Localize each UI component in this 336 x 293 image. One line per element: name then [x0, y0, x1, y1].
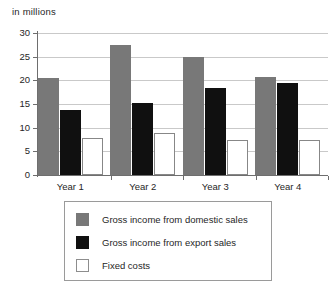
bar — [82, 138, 103, 175]
bar-chart: in millions 051015202530 Year 1Year 2Yea… — [0, 0, 336, 293]
bar — [132, 103, 153, 175]
bar — [38, 78, 59, 175]
legend-item: Gross income from export sales — [76, 235, 236, 249]
bar — [299, 140, 320, 175]
x-tick-mark — [328, 176, 329, 180]
y-tick-label: 15 — [10, 98, 30, 109]
x-tick-label: Year 3 — [202, 181, 229, 192]
x-tick-label: Year 4 — [274, 181, 301, 192]
y-tick-label: 30 — [10, 27, 30, 38]
legend-item: Gross income from domestic sales — [76, 212, 248, 226]
legend-item: Fixed costs — [76, 258, 150, 272]
bar — [183, 57, 204, 175]
bar — [277, 83, 298, 175]
legend-swatch-domestic — [76, 213, 89, 226]
x-tick-label: Year 1 — [57, 181, 84, 192]
bar — [110, 45, 131, 175]
y-tick-label: 5 — [10, 145, 30, 156]
legend-item-label: Gross income from export sales — [102, 237, 236, 248]
chart-legend: Gross income from domestic salesGross in… — [64, 201, 272, 281]
bar — [227, 140, 248, 175]
bar — [154, 133, 175, 175]
y-tick-label: 0 — [10, 169, 30, 180]
legend-swatch-export — [76, 236, 89, 249]
y-tick-label: 25 — [10, 51, 30, 62]
x-tick-mark — [183, 176, 184, 180]
legend-item-label: Fixed costs — [102, 260, 150, 271]
bar — [60, 110, 81, 175]
x-tick-label: Year 2 — [129, 181, 156, 192]
legend-swatch-fixed — [76, 259, 89, 272]
bar — [255, 77, 276, 175]
y-tick-label: 20 — [10, 74, 30, 85]
x-tick-mark — [111, 176, 112, 180]
bar — [205, 88, 226, 175]
x-tick-mark — [256, 176, 257, 180]
legend-item-label: Gross income from domestic sales — [102, 214, 248, 225]
bars-layer — [38, 33, 328, 175]
y-tick-label: 10 — [10, 122, 30, 133]
y-tick-mark — [33, 175, 38, 176]
y-axis-unit-caption: in millions — [12, 6, 56, 17]
